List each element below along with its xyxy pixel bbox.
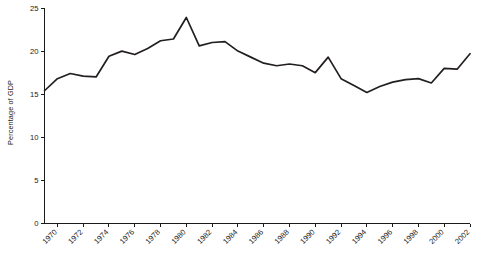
x-tick-label: 1972 xyxy=(66,228,84,246)
y-tick-label: 20 xyxy=(30,47,38,56)
x-tick-label: 1998 xyxy=(402,228,420,246)
x-tick-label: 1996 xyxy=(376,228,394,246)
x-tick-label: 1994 xyxy=(350,228,368,246)
y-tick-label: 10 xyxy=(30,133,38,142)
x-axis-ticks: 1970197219741976197819801982198419861988… xyxy=(40,224,471,246)
x-tick-label: 1992 xyxy=(324,228,342,246)
x-tick-label: 1980 xyxy=(169,228,187,246)
x-tick-label: 1990 xyxy=(298,228,316,246)
x-tick-label: 1984 xyxy=(221,228,239,246)
x-tick-label: 1974 xyxy=(92,228,110,246)
data-series-line xyxy=(45,17,471,92)
x-tick-label: 2000 xyxy=(427,228,445,246)
x-tick-label: 1978 xyxy=(144,228,162,246)
y-tick-label: 15 xyxy=(30,90,38,99)
x-tick-label: 1976 xyxy=(118,228,136,246)
y-tick-label: 0 xyxy=(34,219,38,228)
x-tick-label: 1988 xyxy=(273,228,291,246)
line-chart-plot: 0510152025 19701972197419761978198019821… xyxy=(0,0,482,259)
x-tick-label: 1982 xyxy=(195,228,213,246)
y-tick-label: 5 xyxy=(34,176,38,185)
chart-figure: Percentage of GDP 0510152025 19701972197… xyxy=(0,0,482,259)
x-tick-label: 1970 xyxy=(40,228,58,246)
y-axis-ticks: 0510152025 xyxy=(30,4,44,229)
x-tick-label: 2002 xyxy=(453,228,471,246)
y-tick-label: 25 xyxy=(30,4,38,13)
x-tick-label: 1986 xyxy=(247,228,265,246)
